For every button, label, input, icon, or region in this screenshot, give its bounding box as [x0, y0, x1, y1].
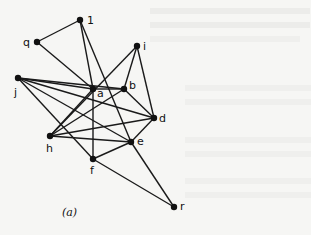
node-label-i: i	[143, 40, 146, 53]
node-r	[171, 204, 177, 210]
node-label-a: a	[97, 87, 104, 100]
edge-f-r	[93, 159, 174, 207]
node-q	[34, 39, 40, 45]
node-f	[90, 156, 96, 162]
node-i	[134, 43, 140, 49]
node-h	[47, 133, 53, 139]
node-d	[151, 115, 157, 121]
graph-edges	[18, 20, 174, 207]
node-e	[128, 139, 134, 145]
node-j	[15, 75, 21, 81]
node-label-q: q	[23, 36, 30, 49]
edge-j-f	[18, 78, 93, 159]
bleed-through-text	[150, 8, 311, 198]
figure-caption: (a)	[62, 206, 77, 219]
node-label-j: j	[13, 86, 17, 99]
edge-e-f	[93, 142, 131, 159]
node-label-b: b	[129, 79, 136, 92]
edge-l-a	[80, 20, 93, 89]
node-label-d: d	[159, 112, 166, 125]
edge-l-q	[37, 20, 80, 42]
node-l	[77, 17, 83, 23]
node-label-r: r	[180, 200, 185, 213]
node-label-l: 1	[87, 14, 94, 27]
graph-figure: 1qijabdhefr (a)	[0, 0, 311, 235]
node-label-e: e	[137, 135, 144, 148]
node-label-h: h	[46, 142, 53, 155]
node-label-f: f	[90, 164, 95, 177]
edge-e-r	[131, 142, 174, 207]
edge-i-d	[137, 46, 154, 118]
node-b	[121, 86, 127, 92]
edge-h-e	[50, 136, 131, 142]
node-a	[90, 86, 96, 92]
